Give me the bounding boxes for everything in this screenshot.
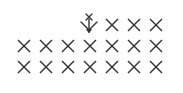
x-mark-icon bbox=[82, 38, 98, 54]
special-insert-icon bbox=[78, 12, 100, 34]
x-mark-icon bbox=[126, 59, 142, 75]
x-mark-icon bbox=[148, 59, 164, 75]
x-mark-icon bbox=[82, 59, 98, 75]
x-mark-icon bbox=[126, 38, 142, 54]
x-mark-icon bbox=[60, 59, 76, 75]
x-mark-icon bbox=[38, 38, 54, 54]
x-mark-icon bbox=[126, 17, 142, 33]
x-mark-icon bbox=[104, 59, 120, 75]
x-mark-icon bbox=[104, 17, 120, 33]
x-mark-icon bbox=[148, 38, 164, 54]
x-mark-icon bbox=[148, 17, 164, 33]
symbol-grid bbox=[0, 0, 183, 93]
x-mark-icon bbox=[16, 59, 32, 75]
x-mark-icon bbox=[16, 38, 32, 54]
x-mark-icon bbox=[38, 59, 54, 75]
x-mark-icon bbox=[60, 38, 76, 54]
x-mark-icon bbox=[104, 38, 120, 54]
